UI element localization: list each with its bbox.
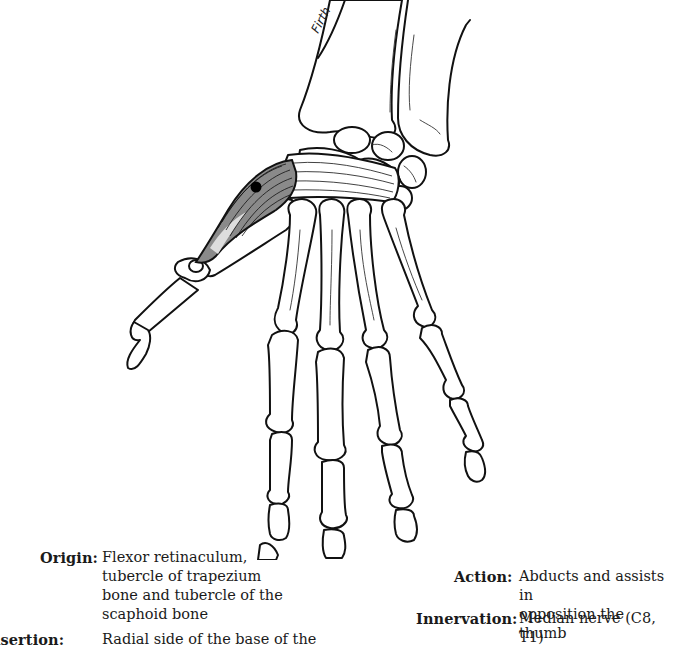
hand-skeleton-illustration: Firth [0, 0, 673, 560]
action-line: Abducts and assists in [519, 567, 673, 605]
origin-line: Flexor retinaculum, [102, 548, 283, 567]
innervation-label: Innervation: [416, 610, 518, 627]
innervation-text: Median nerve (C8, T1) [519, 609, 673, 647]
origin-label: Origin: [40, 549, 98, 566]
innervation-line: Median nerve (C8, T1) [519, 609, 673, 647]
origin-text: Flexor retinaculum, tubercle of trapeziu… [102, 548, 283, 624]
origin-line: scaphoid bone [102, 605, 283, 624]
insertion-text: Radial side of the base of the [102, 630, 316, 649]
metacarpal-bones [275, 199, 436, 350]
insertion-label: Insertion: [0, 631, 64, 648]
insertion-line: Radial side of the base of the [102, 630, 316, 649]
origin-line: bone and tubercle of the [102, 586, 283, 605]
distal-phalanges [268, 398, 485, 558]
origin-line: tubercle of trapezium [102, 567, 283, 586]
origin-point-marker [251, 182, 262, 193]
action-label: Action: [454, 568, 513, 585]
